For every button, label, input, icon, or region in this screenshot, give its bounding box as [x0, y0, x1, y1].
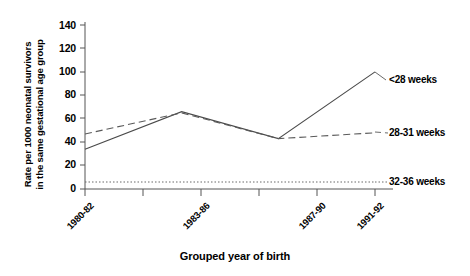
line-chart-figure: Rate per 1000 neonatal survivors in the …	[0, 0, 470, 276]
series-label-28-31-weeks: 28-31 weeks	[389, 127, 445, 138]
leader-line-28-31-weeks	[375, 132, 388, 133]
series-line-28-31-weeks	[85, 113, 375, 139]
series-label-under-28-weeks: <28 weeks	[389, 74, 437, 85]
plot-canvas	[0, 0, 470, 276]
x-axis-title: Grouped year of birth	[0, 250, 470, 262]
series-label-32-36-weeks: 32-36 weeks	[389, 176, 445, 187]
leader-line-under-28-weeks	[375, 72, 386, 80]
series-line-under-28-weeks	[85, 72, 375, 149]
